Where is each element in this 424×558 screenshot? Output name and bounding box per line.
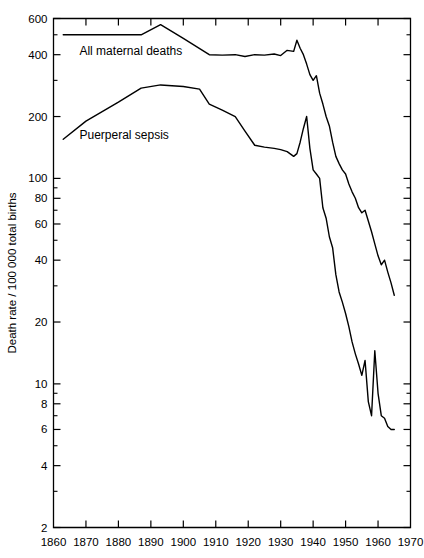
y-tick-label: 100 <box>28 172 47 184</box>
x-tick-label: 1940 <box>300 536 326 548</box>
annotation-all-maternal-deaths: All maternal deaths <box>79 44 182 58</box>
x-tick-label: 1960 <box>365 536 391 548</box>
x-tick-label: 1890 <box>138 536 164 548</box>
y-tick-label: 8 <box>41 398 47 410</box>
x-tick-label: 1860 <box>41 536 67 548</box>
chart-svg: 2468102040608010020040060018601870188018… <box>0 0 424 558</box>
y-tick-label: 40 <box>35 254 48 266</box>
y-tick-label: 200 <box>28 111 47 123</box>
y-axis-title: Death rate / 100 000 total births <box>6 192 18 353</box>
x-tick-label: 1920 <box>235 536 261 548</box>
x-tick-label: 1880 <box>106 536 132 548</box>
x-tick-label: 1870 <box>73 536 99 548</box>
y-tick-label: 20 <box>35 316 48 328</box>
y-axis-title-text: Death rate / 100 000 total births <box>6 192 18 353</box>
x-tick-label: 1930 <box>268 536 294 548</box>
x-tick-label: 1900 <box>171 536 197 548</box>
x-tick-label: 1970 <box>398 536 424 548</box>
y-tick-label: 60 <box>35 218 48 230</box>
y-tick-label: 4 <box>41 460 48 472</box>
x-tick-label: 1910 <box>203 536 229 548</box>
y-tick-label: 600 <box>28 13 47 25</box>
x-tick-label: 1950 <box>333 536 359 548</box>
chart-background <box>0 0 424 558</box>
y-tick-label: 10 <box>35 378 48 390</box>
y-tick-label: 6 <box>41 423 47 435</box>
maternal-mortality-chart: 2468102040608010020040060018601870188018… <box>0 0 424 558</box>
y-tick-label: 80 <box>35 192 48 204</box>
y-tick-label: 400 <box>28 49 47 61</box>
annotation-puerperal-sepsis: Puerperal sepsis <box>79 128 168 142</box>
y-tick-label: 2 <box>41 522 47 534</box>
